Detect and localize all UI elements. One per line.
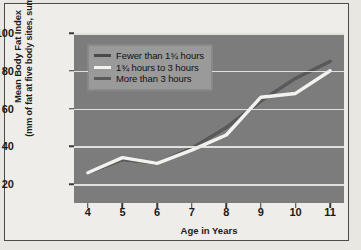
legend-item: More than 3 hours — [94, 73, 204, 85]
plot-area: Fewer than 1¾ hours 1¾ hours to 3 hours … — [74, 33, 344, 203]
y-axis-tick-label: 20 — [0, 178, 14, 190]
legend-swatch-icon — [94, 77, 111, 80]
legend-swatch-icon — [94, 54, 111, 57]
legend-swatch-icon — [94, 66, 111, 69]
y-axis-title: Mean Body Fat Index (mm of fat at five b… — [12, 0, 35, 152]
x-axis-title: Age in Years — [74, 225, 344, 236]
legend-item: 1¾ hours to 3 hours — [94, 62, 204, 74]
y-axis-tick-label: 100 — [0, 27, 14, 39]
x-axis-tick-mark — [295, 203, 297, 208]
chart-legend: Fewer than 1¾ hours 1¾ hours to 3 hours … — [88, 45, 212, 90]
x-axis-tick-mark — [226, 203, 228, 208]
legend-label: 1¾ hours to 3 hours — [116, 62, 199, 73]
legend-item: Fewer than 1¾ hours — [94, 50, 204, 62]
gridline — [74, 184, 344, 186]
y-axis-tick-label: 80 — [0, 65, 14, 77]
gridline — [74, 109, 344, 111]
y-axis-title-line2: (mm of fat at five body sites, summed) — [23, 0, 35, 152]
x-axis-tick-mark — [156, 203, 158, 208]
gridline — [74, 33, 344, 35]
x-axis-tick-mark — [191, 203, 193, 208]
legend-label: More than 3 hours — [116, 73, 191, 84]
x-axis-tick-mark — [260, 203, 262, 208]
legend-label: Fewer than 1¾ hours — [116, 50, 204, 61]
x-axis-tick-mark — [87, 203, 89, 208]
y-axis-tick-label: 40 — [0, 140, 14, 152]
x-axis-tick-mark — [329, 203, 331, 208]
chart-figure: Mean Body Fat Index (mm of fat at five b… — [0, 0, 361, 250]
y-axis-tick-label: 60 — [0, 103, 14, 115]
x-axis-tick-mark — [122, 203, 124, 208]
gridline — [74, 146, 344, 148]
